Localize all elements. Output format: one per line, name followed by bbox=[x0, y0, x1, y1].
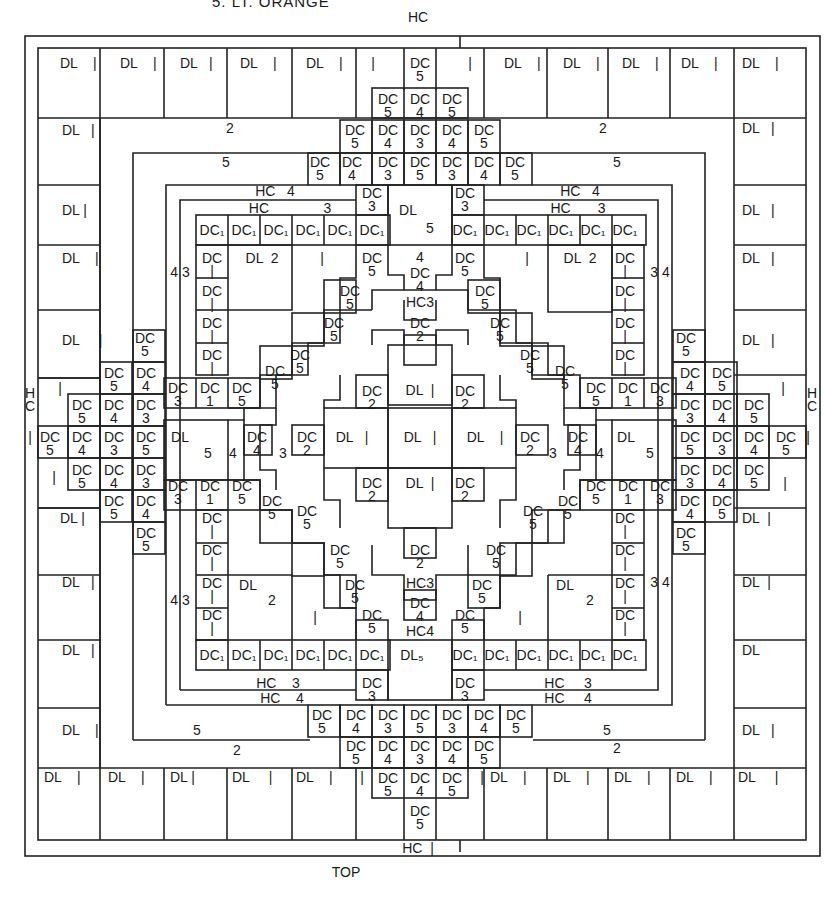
stitch-label: DL | bbox=[44, 771, 81, 784]
stitch-label: | bbox=[52, 471, 56, 484]
stitch-label: DC 4 bbox=[136, 367, 156, 393]
stitch-label: DL | bbox=[336, 431, 369, 444]
stitch-label: DC 5 bbox=[324, 317, 344, 343]
stitch-label: 2 bbox=[613, 742, 621, 755]
stitch-label: DC 5 bbox=[135, 332, 155, 358]
stitch-label: DC 5 bbox=[362, 252, 382, 278]
stitch-label: 5 bbox=[204, 447, 212, 460]
stitch-label: 4 bbox=[596, 447, 604, 460]
stitch-label: DL | bbox=[296, 771, 333, 784]
stitch-label: DC | bbox=[202, 349, 222, 375]
stitch-label: DC 3 bbox=[362, 677, 382, 703]
stitch-label: DC 3 bbox=[410, 740, 430, 766]
stitch-label: DC 2 bbox=[362, 477, 382, 503]
stitch-label: HC bbox=[408, 11, 428, 24]
stitch-label: DC 4 bbox=[410, 772, 430, 798]
stitch-label: DC | bbox=[202, 252, 222, 278]
stitch-label: DC 2 bbox=[362, 385, 382, 411]
stitch-label: DC 5 bbox=[232, 480, 252, 506]
stitch-label: 3 4 bbox=[650, 266, 669, 279]
stitch-label: HC | bbox=[402, 842, 434, 855]
stitch-label: DC 5 bbox=[474, 124, 494, 150]
stitch-label: DL | bbox=[681, 57, 718, 70]
stitch-label: DC 3 bbox=[104, 431, 124, 457]
stitch-label: DL bbox=[617, 431, 635, 444]
stitch-label: DC 5 bbox=[104, 495, 124, 521]
stitch-label: HC3 bbox=[406, 296, 434, 309]
stitch-label: DC 3 bbox=[378, 709, 398, 735]
stitch-label: DC 5 bbox=[486, 544, 506, 570]
stitch-label: DC 5 bbox=[776, 431, 796, 457]
stitch-label: DL | bbox=[120, 57, 157, 70]
stitch-label: DL | bbox=[108, 771, 145, 784]
stitch-label: HC3 bbox=[406, 577, 434, 590]
stitch-label: DL | bbox=[60, 512, 85, 525]
stitch-label: DC₁ bbox=[485, 224, 510, 237]
stitch-label: DC₁ bbox=[264, 224, 289, 237]
stitch-label: DC 5 bbox=[310, 156, 330, 182]
stitch-label: DL₅ bbox=[400, 649, 424, 662]
stitch-label: DC 4 bbox=[680, 367, 700, 393]
stitch-label: | bbox=[320, 252, 324, 265]
stitch-label: 5 bbox=[426, 222, 434, 235]
stitch-label: DC₁ bbox=[360, 224, 385, 237]
stitch-label: DC 5 bbox=[475, 285, 495, 311]
stitch-label: DC 5 bbox=[712, 495, 732, 521]
stitch-label: DC₁ bbox=[200, 649, 225, 662]
stitch-label: DC 3 bbox=[442, 156, 462, 182]
stitch-label: DC 3 bbox=[650, 480, 670, 506]
stitch-label: DL | bbox=[467, 431, 504, 444]
stitch-label: DL | bbox=[62, 576, 95, 589]
stitch-label: DC 5 bbox=[680, 431, 700, 457]
stitch-label: DC₁ bbox=[296, 649, 321, 662]
stitch-label: DC 5 bbox=[520, 349, 540, 375]
stitch-label: TOP bbox=[332, 866, 361, 879]
stitch-label: 4 bbox=[229, 447, 237, 460]
stitch-label: DC 5 bbox=[558, 495, 578, 521]
stitch-label: DC 4 bbox=[410, 267, 430, 293]
stitch-label: DL | bbox=[490, 771, 527, 784]
stitch-label: DC 4 bbox=[744, 431, 764, 457]
stitch-label: H C bbox=[807, 387, 817, 413]
stitch-label: | bbox=[313, 611, 317, 624]
stitch-label: DC 5 bbox=[586, 382, 606, 408]
stitch-label: DC 4 bbox=[136, 495, 156, 521]
stitch-label: DC 5 bbox=[555, 365, 575, 391]
stitch-label: DC 4 bbox=[410, 597, 430, 623]
stitch-label: DC 4 bbox=[410, 93, 430, 119]
stitch-label: DC 5 bbox=[410, 805, 430, 831]
stitch-label: DL | bbox=[60, 57, 97, 70]
stitch-label: DL 2 bbox=[564, 252, 597, 265]
stitch-label: HC 3 bbox=[256, 677, 300, 690]
stitch-label: DC 3 bbox=[680, 464, 700, 490]
stitch-label: DC 4 bbox=[712, 464, 732, 490]
stitch-label: DC | bbox=[202, 577, 222, 603]
stitch-label: DC 5 bbox=[506, 709, 526, 735]
stitch-label: DC 5 bbox=[378, 772, 398, 798]
stitch-label: DC 5 bbox=[136, 527, 156, 553]
stitch-label: DC₁ bbox=[296, 224, 321, 237]
stitch-label: DC 3 bbox=[680, 399, 700, 425]
stitch-label: DL 2 bbox=[246, 252, 279, 265]
stitch-label: | bbox=[525, 252, 529, 265]
stitch-label: DC 5 bbox=[312, 709, 332, 735]
stitch-label: DC | bbox=[615, 317, 635, 343]
stitch-label: DC 5 bbox=[442, 772, 462, 798]
stitch-label: DC 5 bbox=[455, 609, 475, 635]
stitch-label: DC 5 bbox=[410, 57, 430, 83]
stitch-label: DC 5 bbox=[410, 709, 430, 735]
stitch-label: DC 3 bbox=[455, 677, 475, 703]
stitch-label: DL | bbox=[240, 57, 277, 70]
stitch-label: DC 4 bbox=[568, 431, 588, 457]
stitch-label: | bbox=[480, 771, 484, 784]
stitch-label: DC 5 bbox=[523, 505, 543, 531]
stitch-label: DL | bbox=[170, 771, 195, 784]
stitch-label: | bbox=[783, 477, 787, 490]
stitch-label: H C bbox=[25, 387, 35, 413]
stitch-label: DC 4 bbox=[474, 709, 494, 735]
stitch-label: DC₁ bbox=[453, 224, 478, 237]
stitch-label: DL bbox=[742, 644, 760, 657]
stitch-label: DC | bbox=[615, 285, 635, 311]
stitch-label: HC 4 bbox=[255, 185, 295, 198]
stitch-label: DL bbox=[399, 204, 417, 217]
